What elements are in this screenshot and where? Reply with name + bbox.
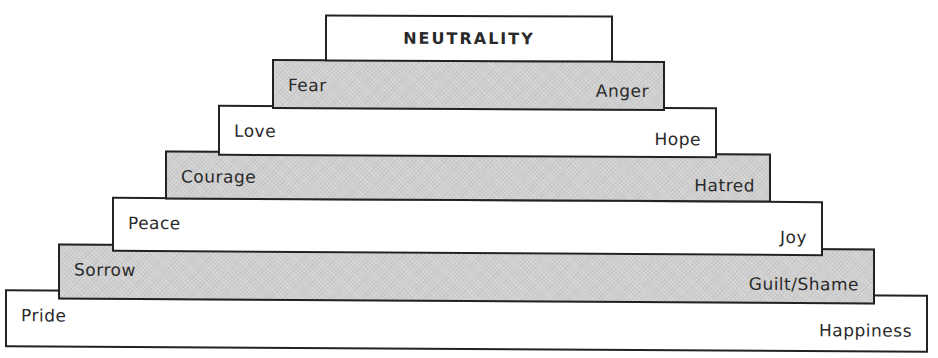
tier-left-label: Sorrow: [74, 260, 136, 280]
tier-peace-joy: Peace Joy: [112, 197, 823, 256]
tier-neutrality: NEUTRALITY: [325, 14, 613, 62]
tier-right-label: Hope: [655, 129, 701, 149]
tier-fear-anger: Fear Anger: [272, 59, 665, 111]
tier-right-label: Anger: [596, 81, 649, 101]
tier-left-label: Pride: [21, 305, 66, 325]
tier-left-label: Love: [234, 121, 276, 141]
tier-right-label: Happiness: [819, 320, 912, 341]
tier-courage-hatred: Courage Hatred: [165, 150, 771, 202]
tier-left-label: Peace: [128, 213, 181, 233]
tier-left-label: Fear: [288, 75, 327, 95]
tier-right-label: Joy: [780, 227, 807, 247]
tier-love-hope: Love Hope: [218, 105, 717, 159]
apex-label: NEUTRALITY: [403, 29, 535, 48]
tier-right-label: Guilt/Shame: [749, 274, 859, 295]
tier-right-label: Hatred: [694, 175, 755, 195]
tier-left-label: Courage: [181, 166, 256, 186]
